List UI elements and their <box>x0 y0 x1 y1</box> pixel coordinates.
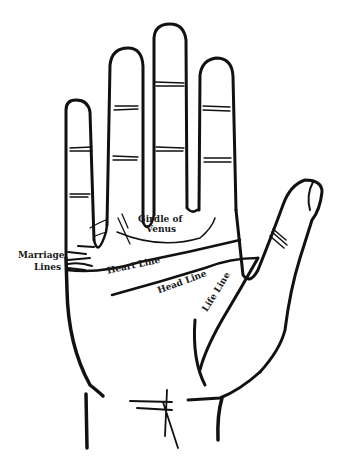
finger-creases <box>70 82 231 197</box>
pinky-finger <box>66 100 94 258</box>
palm-left-edge <box>66 258 103 396</box>
label-marriage-lines-2: Lines <box>34 262 61 272</box>
marriage-lines <box>68 246 94 270</box>
middle-finger <box>154 24 187 215</box>
index-finger <box>199 58 236 210</box>
label-marriage-lines-1: Marriage <box>18 250 65 260</box>
label-girdle-of-venus-2: Venus <box>146 224 176 234</box>
hand-outline <box>66 24 322 448</box>
label-girdle-of-venus-1: Girdle of <box>138 214 182 224</box>
ring-finger <box>107 48 143 225</box>
